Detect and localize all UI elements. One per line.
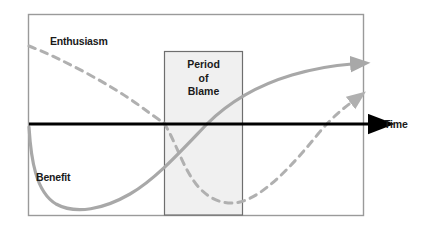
period-of-blame-line-2: of [164, 72, 243, 86]
time-axis-label: Time [384, 118, 408, 130]
benefit-label: Benefit [36, 171, 70, 183]
enthusiasm-label: Enthusiasm [50, 35, 108, 47]
period-of-blame-line-1: Period [164, 58, 243, 72]
period-of-blame-line-3: Blame [164, 85, 243, 99]
diagram-canvas: Enthusiasm Benefit Time Period of Blame [0, 0, 431, 229]
period-of-blame-label: Period of Blame [164, 58, 243, 99]
